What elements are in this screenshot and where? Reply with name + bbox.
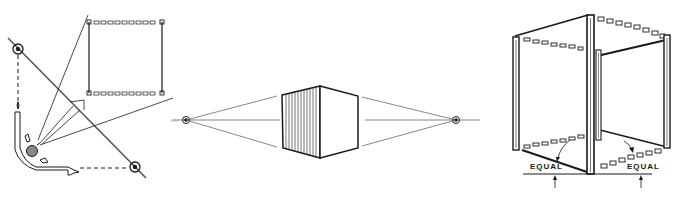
open-cube-frame-figure [0, 0, 683, 198]
equal-label-right: EQUAL [627, 162, 660, 171]
equal-label-left: EQUAL [530, 162, 563, 171]
